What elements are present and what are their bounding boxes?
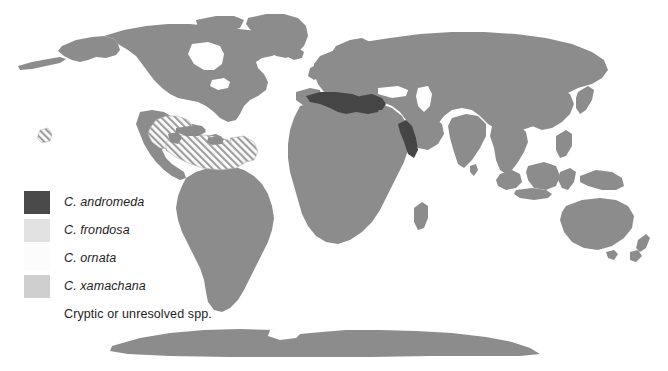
- map-legend: C. andromeda C. frondosa C. ornata C. xa…: [24, 188, 244, 328]
- legend-swatch-c-andromeda: [24, 191, 50, 214]
- legend-item: C. ornata: [24, 244, 244, 272]
- legend-item: C. andromeda: [24, 188, 244, 216]
- legend-label: Cryptic or unresolved spp.: [64, 307, 212, 321]
- legend-label: C. xamachana: [64, 279, 146, 293]
- legend-swatch-c-frondosa: [24, 219, 50, 242]
- legend-swatch-cryptic: [24, 303, 50, 326]
- distribution-map-figure: C. andromeda C. frondosa C. ornata C. xa…: [0, 0, 668, 371]
- legend-item: Cryptic or unresolved spp.: [24, 300, 244, 328]
- legend-item: C. frondosa: [24, 216, 244, 244]
- legend-label: C. andromeda: [64, 195, 144, 209]
- legend-label: C. frondosa: [64, 223, 130, 237]
- legend-label: C. ornata: [64, 251, 116, 265]
- legend-swatch-c-ornata: [24, 247, 50, 270]
- legend-item: C. xamachana: [24, 272, 244, 300]
- legend-swatch-c-xamachana: [24, 275, 50, 298]
